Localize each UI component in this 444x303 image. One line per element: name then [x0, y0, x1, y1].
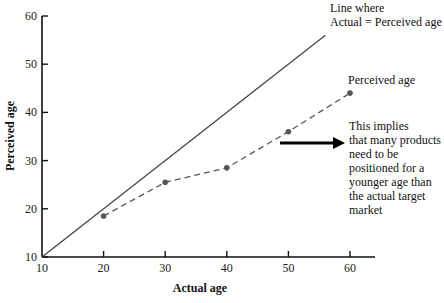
perceived-age-line [104, 93, 350, 216]
y-tick-label: 50 [25, 57, 37, 71]
note-line: This implies [349, 119, 409, 133]
x-tick-label: 50 [282, 261, 294, 275]
x-tick-label: 60 [344, 261, 356, 275]
y-tick-label: 30 [25, 154, 37, 168]
data-point-marker [162, 179, 168, 185]
implication-note: This impliesthat many productsneed to be… [349, 119, 441, 217]
x-ticks: 102030405060 [36, 251, 356, 275]
y-tick-label: 60 [25, 9, 37, 23]
y-ticks: 102030405060 [25, 9, 48, 264]
x-axis-label: Actual age [173, 281, 228, 295]
y-tick-label: 20 [25, 202, 37, 216]
data-point-marker [224, 165, 230, 171]
identity-line-label-1: Line where [330, 1, 384, 15]
note-line: need to be [349, 147, 398, 161]
chart: 102030405060 102030405060 Actual age Per… [0, 0, 444, 303]
identity-line-label-2: Actual = Perceived age [330, 15, 442, 29]
perceived-age-label: Perceived age [348, 73, 415, 87]
note-line: positioned for a [349, 161, 425, 175]
x-tick-label: 40 [221, 261, 233, 275]
note-line: younger age than [349, 175, 432, 189]
identity-line [42, 35, 325, 257]
y-tick-label: 40 [25, 105, 37, 119]
note-line: that many products [349, 133, 441, 147]
data-point-marker [101, 213, 107, 219]
perceived-age-markers [101, 90, 353, 219]
data-point-marker [286, 129, 292, 135]
data-point-marker [347, 90, 353, 96]
x-tick-label: 10 [36, 261, 48, 275]
note-line: market [349, 203, 383, 217]
x-tick-label: 30 [159, 261, 171, 275]
implication-arrow-icon [333, 137, 345, 149]
y-axis-label: Perceived age [3, 100, 17, 171]
note-line: the actual target [349, 189, 426, 203]
x-tick-label: 20 [98, 261, 110, 275]
